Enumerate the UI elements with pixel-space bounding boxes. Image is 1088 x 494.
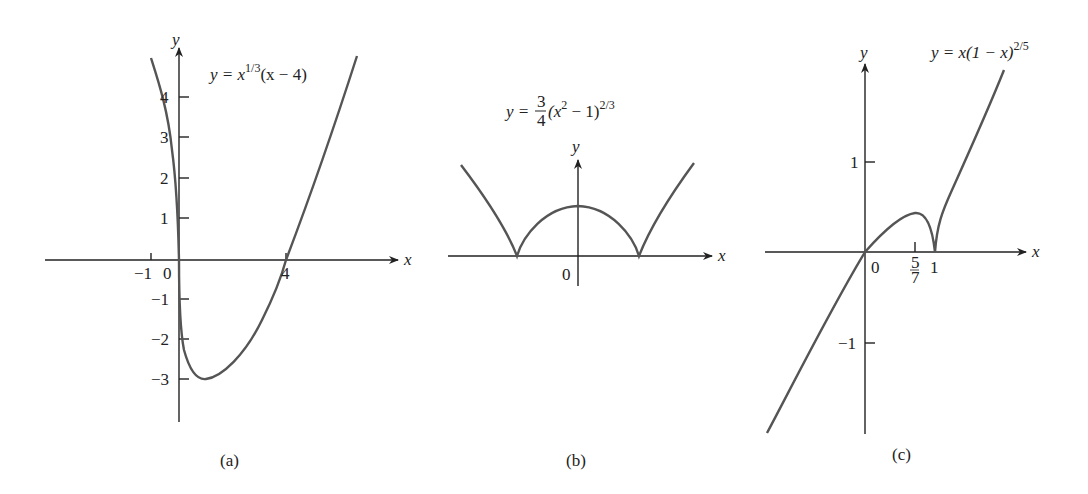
- formula-a: y = x1/3(x − 4): [208, 61, 307, 84]
- caption-c: (c): [892, 445, 911, 464]
- panel-c: y x 0 5 7 1 1 −1 y = x(1 − x)2/5 (c): [765, 39, 1040, 464]
- svg-text:3: 3: [537, 92, 546, 111]
- y-tick-label: 1: [850, 153, 859, 172]
- y-tick-label: 2: [160, 169, 169, 188]
- formula-b: y = 3 4 (x2 − 1)2/3: [504, 92, 615, 130]
- y-tick-label: 1: [160, 209, 169, 228]
- y-tick-label: 4: [160, 88, 169, 107]
- y-tick-label: −1: [151, 290, 169, 309]
- x-tick-label: 1: [930, 258, 939, 277]
- y-axis-label: y: [570, 137, 580, 156]
- x-axis-label: x: [717, 246, 726, 265]
- y-tick-label: −2: [151, 330, 169, 349]
- y-axis-label: y: [858, 43, 868, 62]
- svg-text:4: 4: [537, 111, 546, 130]
- caption-a: (a): [220, 451, 239, 470]
- x-tick-label: 0: [871, 258, 880, 277]
- y-tick-label: 3: [160, 128, 169, 147]
- x-axis-label: x: [1031, 242, 1040, 261]
- x-tick-label: 7: [911, 268, 920, 287]
- x-tick-label: 0: [562, 265, 571, 284]
- svg-text:y =: y =: [504, 102, 529, 121]
- x-tick-label: 4: [281, 264, 290, 283]
- y-tick-label: −1: [838, 334, 856, 353]
- x-axis-label: x: [403, 250, 412, 269]
- formula-c: y = x(1 − x)2/5: [929, 39, 1029, 62]
- svg-text:(x2 − 1)2/3: (x2 − 1)2/3: [548, 98, 615, 121]
- x-tick-label: 0: [163, 264, 172, 283]
- panel-a: y x −1 0 4 4 3 2 1 −1 −2 −3 y = x1/3(x −…: [45, 30, 412, 470]
- panel-b: y x 0 y = 3 4 (x2 − 1)2/3 (b): [448, 92, 726, 470]
- caption-b: (b): [566, 451, 586, 470]
- x-tick-label: −1: [134, 264, 152, 283]
- y-tick-label: −3: [151, 370, 169, 389]
- y-axis-label: y: [170, 30, 180, 49]
- figure-canvas: y x −1 0 4 4 3 2 1 −1 −2 −3 y = x1/3(x −…: [0, 0, 1088, 494]
